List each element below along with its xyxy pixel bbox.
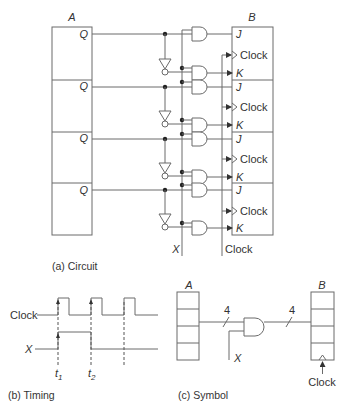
- clock-input-label: Clock: [240, 153, 268, 165]
- and-gate-icon: [192, 80, 207, 94]
- t1-label: t1: [55, 367, 63, 382]
- symbol-register-b-label: B: [318, 279, 325, 291]
- clock-input-label: Clock: [240, 101, 268, 113]
- register-a-label: A: [67, 11, 75, 23]
- circuit-caption: (a) Circuit: [52, 260, 98, 272]
- clock-input-label: Clock: [240, 205, 268, 217]
- j-input-label: J: [235, 28, 242, 40]
- inverter-icon: [159, 214, 171, 224]
- j-input-label: J: [235, 81, 242, 93]
- timing-x-label: X: [24, 343, 33, 355]
- timing-clock-label: Clock: [10, 309, 38, 321]
- register-b-label: B: [248, 11, 255, 23]
- k-input-label: K: [236, 222, 244, 234]
- symbol-caption: (c) Symbol: [178, 389, 228, 401]
- and-gate-icon: [192, 183, 207, 197]
- and-gate-icon: [192, 27, 207, 41]
- symbol-x-label: X: [233, 352, 242, 364]
- register-a: [52, 27, 92, 235]
- t2-label: t2: [88, 367, 96, 382]
- x-waveform: [35, 332, 158, 349]
- q-output-label-1: Q: [79, 28, 88, 40]
- and-gate-icon: [244, 318, 264, 336]
- and-gate-icon: [192, 221, 207, 235]
- and-gate-icon: [192, 170, 207, 184]
- inverter-icon: [159, 111, 171, 121]
- bus-width-out: 4: [289, 304, 295, 316]
- inverter-icon: [159, 59, 171, 69]
- symbol-section: A 4 X 4 B Clock (c) Symbol: [177, 279, 336, 401]
- q-output-label-3: Q: [79, 132, 88, 144]
- timing-caption: (b) Timing: [8, 389, 55, 401]
- and-gate-icon: [192, 132, 207, 146]
- clock-input-label: Clock: [240, 49, 268, 61]
- symbol-clock-label: Clock: [308, 376, 336, 388]
- and-gate-icon: [192, 66, 207, 80]
- q-output-label-2: Q: [79, 80, 88, 92]
- symbol-register-a-label: A: [184, 279, 192, 291]
- circuit-section: A Q Q Q Q B X Clock: [52, 11, 273, 272]
- k-input-label: K: [236, 171, 244, 183]
- k-input-label: K: [236, 119, 244, 131]
- k-input-label: K: [236, 67, 244, 79]
- clock-label: Clock: [225, 243, 253, 255]
- transfer-circuit-diagram: A Q Q Q Q B X Clock: [0, 0, 352, 414]
- and-gate-icon: [192, 118, 207, 132]
- q-output-label-4: Q: [79, 184, 88, 196]
- inverter-icon: [159, 163, 171, 173]
- bus-width-in: 4: [224, 304, 230, 316]
- x-label: X: [171, 243, 180, 255]
- j-input-label: J: [235, 133, 242, 145]
- clock-waveform: [37, 298, 158, 315]
- timing-section: Clock X t1 t2 (b) Timing: [8, 298, 158, 401]
- j-input-label: J: [235, 184, 242, 196]
